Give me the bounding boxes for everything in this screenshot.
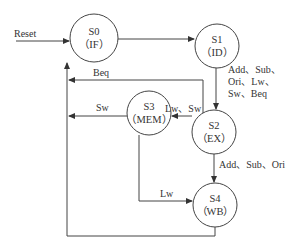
lw-sw-label: Lw、Sw	[165, 103, 201, 115]
lw-label: Lw	[160, 188, 173, 200]
state-s1-name: S1	[197, 33, 237, 46]
state-s4-stage: （WB）	[195, 205, 235, 218]
state-s2: S2 （EX）	[194, 119, 234, 145]
state-s1: S1 （ID）	[197, 33, 237, 59]
state-s0-stage: （IF）	[74, 38, 114, 51]
s1-s2-label: Add、Sub、 Ori、Lw、 Sw、Beq	[228, 64, 281, 100]
s4-to-s0-arrow	[67, 63, 215, 236]
reset-label: Reset	[14, 28, 36, 40]
state-s4-name: S4	[195, 192, 235, 205]
beq-label: Beq	[93, 67, 109, 79]
sw-label: Sw	[96, 102, 109, 114]
state-s2-stage: （EX）	[194, 132, 234, 145]
state-s4: S4 （WB）	[195, 192, 235, 218]
s2-s4-label: Add、Sub、Ori	[219, 159, 285, 171]
state-s2-name: S2	[194, 119, 234, 132]
state-s0: S0 （IF）	[74, 25, 114, 51]
state-s0-name: S0	[74, 25, 114, 38]
state-s1-stage: （ID）	[197, 46, 237, 59]
